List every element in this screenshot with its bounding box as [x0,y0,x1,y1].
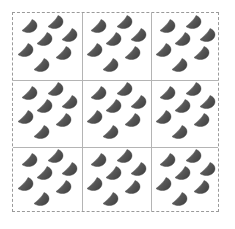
cone-icon [86,177,103,192]
cone-icon [193,46,210,61]
tile-cell-r0-c0 [13,13,82,80]
cone-icon [102,125,119,140]
cone-icon [171,192,188,207]
tile-cell-r1-c0 [13,80,82,147]
cone-icon [130,28,147,43]
cone-icon [105,99,122,114]
cone-icon [155,110,172,125]
cone-icon [36,32,53,47]
tile-cell-r1-c1 [82,80,151,147]
cone-icon [17,177,34,192]
cone-icon [174,99,191,114]
cone-icon [193,113,210,128]
cone-icon [55,180,72,195]
cone-icon [36,166,53,181]
cone-icon [86,110,103,125]
tile-cell-r0-c2 [151,13,220,80]
cone-icon [17,43,34,58]
tile-cell-r1-c2 [151,80,220,147]
cone-icon [174,32,191,47]
cone-icon [105,32,122,47]
cone-icon [124,46,141,61]
cone-icon [174,166,191,181]
cone-icon [55,46,72,61]
pattern-region [12,12,219,212]
cone-icon [33,192,50,207]
cone-icon [36,99,53,114]
cone-icon [171,125,188,140]
cone-icon [155,43,172,58]
cone-icon [105,166,122,181]
cone-icon [17,110,34,125]
cone-icon [193,180,210,195]
cone-icon [155,177,172,192]
cone-icon [102,192,119,207]
cone-icon [86,43,103,58]
cone-icon [124,180,141,195]
cone-icon [61,162,78,177]
tile-cell-r2-c1 [82,147,151,214]
tile-cell-r2-c2 [151,147,220,214]
tile-cell-r0-c1 [82,13,151,80]
cone-icon [61,95,78,110]
cone-icon [199,28,216,43]
cone-icon [102,58,119,73]
cone-icon [199,162,216,177]
tile-cell-r2-c0 [13,147,82,214]
cone-icon [33,58,50,73]
cone-icon [171,58,188,73]
cone-icon [33,125,50,140]
cone-icon [130,95,147,110]
figure-canvas [0,0,235,229]
cone-icon [61,28,78,43]
cone-icon [55,113,72,128]
cone-icon [130,162,147,177]
cone-icon [124,113,141,128]
cone-icon [199,95,216,110]
